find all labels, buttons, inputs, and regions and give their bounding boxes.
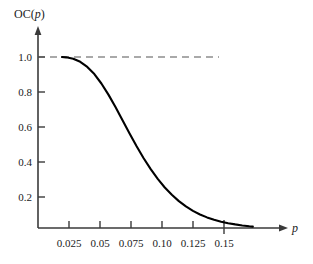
y-axis-title-prefix: OC(: [14, 7, 35, 21]
y-tick-label-1.0: 1.0: [2, 52, 32, 63]
y-tick-label-0.8: 0.8: [2, 87, 32, 98]
y-tick-label-0.4: 0.4: [2, 157, 32, 168]
x-axis-title: p: [292, 222, 298, 234]
y-axis-title-suffix: ): [41, 7, 45, 21]
oc-curve-plot: [0, 0, 313, 264]
y-axis-title: OC(p): [14, 8, 45, 20]
oc-curve-line: [62, 57, 253, 227]
x-tick-label-0.125: 0.125: [181, 238, 206, 249]
chart-figure: 1.0 0.8 0.6 0.4 0.2 0.025 0.05 0.075 0.1…: [0, 0, 313, 264]
y-tick-label-0.6: 0.6: [2, 122, 32, 133]
x-tick-label-0.15: 0.15: [214, 238, 233, 249]
x-tick-label-0.10: 0.10: [152, 238, 171, 249]
y-axis-ticks: [38, 57, 45, 197]
x-tick-label-0.025: 0.025: [57, 238, 82, 249]
y-tick-label-0.2: 0.2: [2, 192, 32, 203]
x-tick-label-0.05: 0.05: [90, 238, 109, 249]
x-tick-label-0.075: 0.075: [119, 238, 144, 249]
x-axis-arrow-icon: [279, 225, 288, 232]
y-axis-arrow-icon: [35, 26, 42, 35]
x-axis-ticks: [69, 220, 224, 234]
